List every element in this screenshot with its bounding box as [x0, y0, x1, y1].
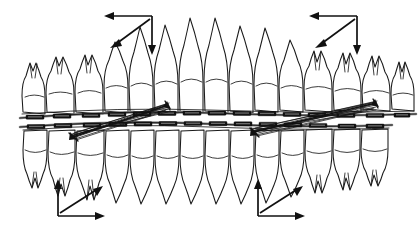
bracket: [309, 123, 327, 127]
bracket: [54, 124, 72, 128]
bracket: [184, 121, 202, 125]
bracket: [366, 113, 384, 117]
bracket: [394, 113, 410, 117]
bracket: [183, 111, 201, 115]
figure-root: [0, 0, 418, 233]
dental-arch-diagram: [0, 0, 418, 233]
bracket: [233, 111, 251, 115]
bracket: [338, 124, 356, 128]
bracket: [209, 122, 227, 126]
bracket: [27, 125, 45, 129]
bracket: [134, 122, 152, 126]
bracket: [208, 111, 226, 115]
bracket: [258, 112, 276, 116]
bracket: [82, 113, 100, 117]
bracket: [26, 115, 44, 119]
bracket: [283, 112, 301, 116]
bracket: [366, 124, 384, 128]
bracket: [108, 112, 126, 116]
bracket: [53, 114, 71, 118]
bracket: [234, 122, 252, 126]
bracket: [159, 122, 177, 126]
